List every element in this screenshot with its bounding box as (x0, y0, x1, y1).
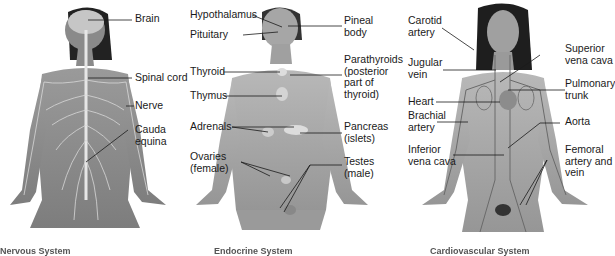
label-thyroid: Thyroid (190, 66, 225, 78)
endocrine-system-figure (196, 7, 368, 230)
label-thymus: Thymus (190, 90, 227, 102)
label-testes: Testes (male) (344, 156, 374, 179)
label-cauda-equina: Cauda equina (135, 124, 167, 147)
cardiovascular-system-figure (422, 3, 588, 232)
caption-endocrine-system: Endocrine System (214, 246, 293, 256)
label-adrenals: Adrenals (190, 121, 231, 133)
label-brain: Brain (135, 13, 160, 25)
heart-shape (499, 90, 517, 110)
label-brachial-artery: Brachial artery (408, 110, 446, 133)
label-ovaries: Ovaries (female) (190, 151, 229, 174)
label-aorta: Aorta (565, 116, 590, 128)
label-femoral-artery-vein: Femoral artery and vein (565, 144, 612, 179)
label-superior-vena-cava: Superior vena cava (565, 43, 613, 66)
caption-nervous-system: Nervous System (0, 246, 71, 256)
label-spinal-cord: Spinal cord (135, 72, 188, 84)
label-jugular-vein: Jugular vein (408, 57, 442, 80)
caption-cardiovascular-system: Cardiovascular System (430, 246, 530, 256)
label-pituitary: Pituitary (190, 29, 228, 41)
label-pancreas: Pancreas (islets) (344, 121, 388, 144)
label-hypothalamus: Hypothalamus (190, 9, 257, 21)
label-pulmonary-trunk: Pulmonary trunk (565, 78, 615, 101)
label-pineal-body: Pineal body (344, 15, 373, 38)
label-carotid-artery: Carotid artery (408, 15, 442, 38)
label-heart: Heart (408, 96, 434, 108)
label-inferior-vena-cava: Inferior vena cava (408, 144, 456, 167)
label-nerve: Nerve (135, 100, 163, 112)
nervous-system-figure (10, 7, 166, 228)
label-parathyroids: Parathyroids (posterior part of thyroid) (344, 54, 403, 100)
